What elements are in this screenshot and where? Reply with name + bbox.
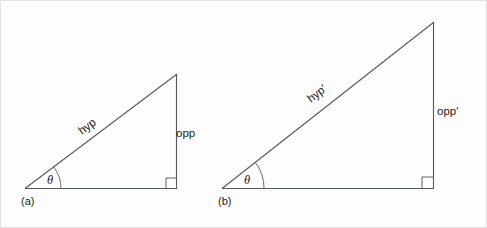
triangle-b-right-angle-marker: [422, 177, 434, 188]
triangle-b-hypotenuse-line: [222, 22, 434, 189]
panel-a-caption: (a): [21, 195, 34, 207]
triangle-a-angle-arc: [54, 167, 61, 189]
triangle-a-hypotenuse-label: hyp: [76, 116, 98, 137]
triangle-a-hypotenuse-line: [25, 74, 177, 189]
triangle-b-hypotenuse-label: hyp′: [305, 82, 329, 104]
panel-a: hyp opp θ (a): [21, 74, 195, 207]
panel-b-caption: (b): [218, 195, 231, 207]
trigonometry-figure: hyp opp θ (a) hyp′ opp′ θ: [0, 0, 487, 228]
triangle-b-angle-label: θ: [244, 173, 250, 187]
panel-b: hyp′ opp′ θ (b): [218, 22, 458, 207]
triangle-a-opposite-label: opp: [176, 127, 195, 139]
triangle-b-angle-arc: [255, 162, 264, 189]
figure-frame: [1, 1, 487, 228]
triangle-b-opposite-label: opp′: [437, 105, 458, 117]
triangle-a-angle-label: θ: [47, 173, 53, 187]
triangle-a-right-angle-marker: [166, 178, 177, 188]
